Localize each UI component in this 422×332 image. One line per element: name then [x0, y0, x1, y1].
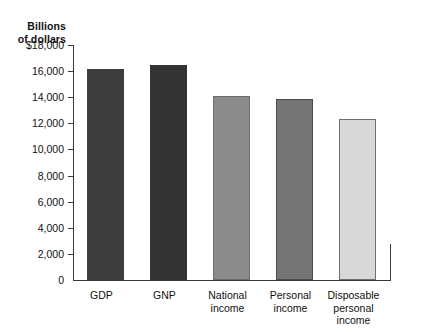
bar-gdp	[87, 69, 124, 281]
y-axis-tick	[68, 176, 73, 177]
y-axis-tick-label: 0	[58, 275, 64, 286]
y-axis-tick	[68, 254, 73, 255]
y-axis-tick	[68, 123, 73, 124]
x-axis-line	[73, 280, 391, 281]
y-axis-tick	[68, 45, 73, 46]
x-axis-label-disposable-personal-income: Disposable personal income	[314, 289, 393, 327]
bar-national-income	[213, 96, 250, 280]
y-axis-tick	[68, 202, 73, 203]
bar-disposable-personal-income	[339, 119, 376, 280]
y-axis-tick-label: 4,000	[38, 222, 64, 233]
y-axis-tick-label: 16,000	[32, 66, 64, 77]
y-axis-tick	[68, 228, 73, 229]
plot-right-border	[390, 244, 391, 280]
bar-chart: Billions of dollars $18,000 16,000 14,00…	[0, 0, 422, 332]
y-axis-tick-label: 14,000	[32, 92, 64, 103]
y-axis-tick-label: 10,000	[32, 144, 64, 155]
bar-personal-income	[276, 99, 313, 280]
plot-area: $18,000 16,000 14,000 12,000 10,000 8,00…	[73, 45, 390, 280]
y-axis-line	[73, 45, 74, 280]
y-axis-tick	[68, 71, 73, 72]
y-axis-tick-label: 8,000	[38, 170, 64, 181]
y-axis-tick-label: 6,000	[38, 196, 64, 207]
y-axis-tick-label: $18,000	[26, 40, 64, 51]
y-axis-tick-label: 2,000	[38, 248, 64, 259]
y-axis-tick	[68, 149, 73, 150]
bar-gnp	[150, 65, 187, 280]
y-axis-tick	[68, 97, 73, 98]
y-axis-tick-label: 12,000	[32, 118, 64, 129]
